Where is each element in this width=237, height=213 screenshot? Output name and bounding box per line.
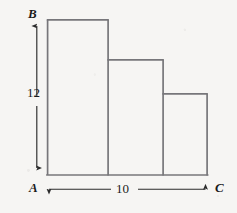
- height-measure-label: 12: [27, 86, 40, 99]
- vertex-label-b: B: [28, 7, 37, 20]
- bar-3: [162, 93, 207, 175]
- vertex-label-c: C: [215, 181, 224, 194]
- bar-1: [47, 19, 109, 175]
- vertex-label-a: A: [29, 181, 38, 194]
- bar-2: [107, 59, 163, 175]
- width-measure-label: 10: [116, 182, 129, 195]
